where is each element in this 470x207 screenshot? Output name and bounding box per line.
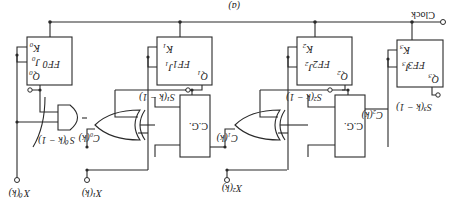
c1-label: C₁(k) bbox=[216, 132, 238, 144]
xor-gate-2: C₁(k) X²(k) bbox=[216, 90, 308, 194]
figure-caption: (a) bbox=[228, 0, 240, 12]
svg-text:FF1: FF1 bbox=[173, 59, 191, 70]
and-gate: S⁰(k − 1) bbox=[15, 90, 87, 147]
svg-text:FF2: FF2 bbox=[313, 59, 331, 70]
c0-label: C₀(k) bbox=[78, 132, 100, 144]
c2-label: C₂(k) bbox=[361, 109, 383, 121]
s1-label: S¹(k − 1) bbox=[138, 91, 175, 103]
s3-label: S³(k − 1) bbox=[395, 101, 432, 113]
input-x1-label: X¹(k) bbox=[81, 187, 103, 199]
xor-gate-1: C₀(k) X¹(k) bbox=[78, 90, 155, 199]
clock-label: Clock bbox=[411, 10, 435, 21]
input-x0-label: X⁰(k) bbox=[8, 187, 31, 199]
clock-terminal[interactable] bbox=[441, 20, 446, 25]
svg-text:C.G.: C.G. bbox=[189, 121, 208, 132]
svg-text:FF0: FF0 bbox=[43, 59, 61, 70]
cg2-label: C.G. bbox=[344, 121, 363, 132]
flip-flop-ff3: FF3 Q3 J3 K3 S³(k − 1) bbox=[386, 20, 443, 147]
s2-label: S²(k − 1) bbox=[285, 91, 322, 103]
rotated-circuit: Clock (a) FF3 Q3 J3 K3 S³(k − 1) C.G. bbox=[8, 0, 445, 199]
circuit-diagram: Clock (a) FF3 Q3 J3 K3 S³(k − 1) C.G. bbox=[0, 0, 470, 207]
input-x2-label: X²(k) bbox=[221, 182, 243, 194]
circuit-figure: Clock (a) FF3 Q3 J3 K3 S³(k − 1) C.G. bbox=[0, 0, 470, 207]
s0-label: S⁰(k − 1) bbox=[37, 134, 75, 146]
